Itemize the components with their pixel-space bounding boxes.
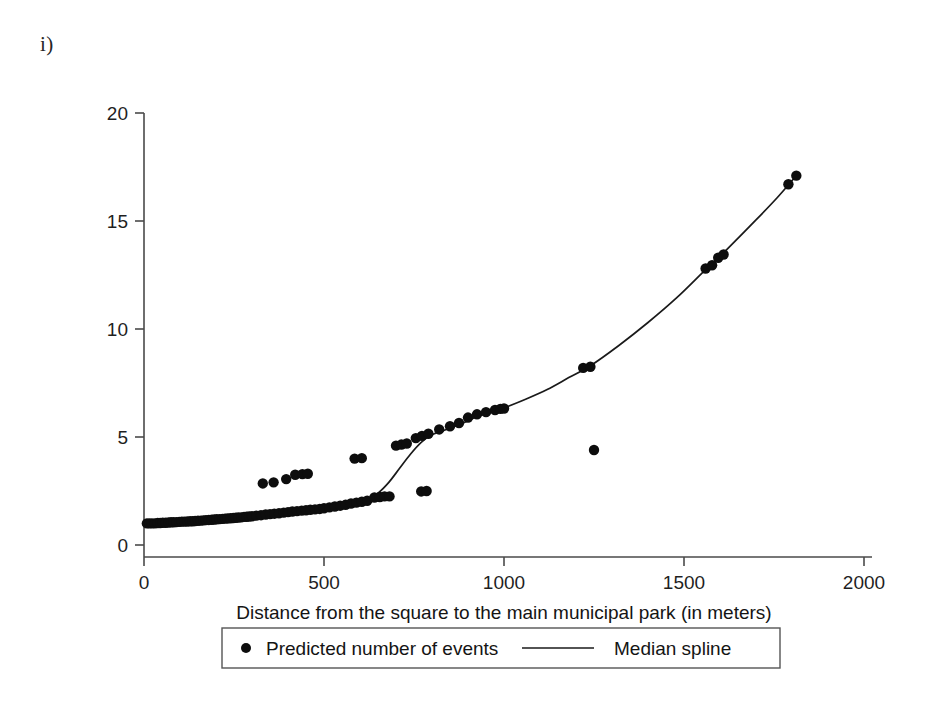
legend-dot-icon	[241, 643, 251, 653]
y-tick-label: 10	[107, 319, 128, 340]
figure-container: i) 051015200500100015002000Distance from…	[0, 0, 939, 712]
data-point	[268, 477, 278, 487]
data-points-layer	[142, 170, 802, 528]
data-point	[481, 407, 491, 417]
x-tick-label: 2000	[843, 572, 885, 593]
data-point	[384, 491, 394, 501]
data-point	[281, 474, 291, 484]
data-point	[445, 421, 455, 431]
data-point	[357, 453, 367, 463]
median-spline-layer	[148, 176, 797, 524]
data-point	[434, 424, 444, 434]
y-tick-label: 0	[117, 535, 128, 556]
data-point	[303, 469, 313, 479]
data-point	[421, 486, 431, 496]
data-point	[791, 170, 801, 180]
x-tick-label: 500	[308, 572, 340, 593]
data-point	[718, 249, 728, 259]
axes-layer	[135, 113, 872, 566]
data-point	[423, 429, 433, 439]
data-point	[472, 409, 482, 419]
x-tick-label: 1000	[483, 572, 525, 593]
data-point	[589, 445, 599, 455]
chart-legend[interactable]: Predicted number of eventsMedian spline	[222, 628, 780, 668]
data-point	[402, 438, 412, 448]
y-tick-label: 15	[107, 211, 128, 232]
axis-labels-layer: 051015200500100015002000Distance from th…	[107, 103, 885, 623]
data-point	[783, 179, 793, 189]
legend-label-predicted[interactable]: Predicted number of events	[266, 638, 498, 659]
data-point	[585, 362, 595, 372]
x-tick-label: 0	[139, 572, 150, 593]
data-point	[258, 478, 268, 488]
median-spline-path	[148, 176, 797, 524]
legend-label-spline[interactable]: Median spline	[614, 638, 731, 659]
data-point	[454, 418, 464, 428]
data-point	[499, 403, 509, 413]
x-tick-label: 1500	[663, 572, 705, 593]
scatter-plot-svg: 051015200500100015002000Distance from th…	[0, 0, 939, 712]
y-tick-label: 5	[117, 427, 128, 448]
x-axis-title: Distance from the square to the main mun…	[236, 602, 771, 623]
y-tick-label: 20	[107, 103, 128, 124]
data-point	[463, 412, 473, 422]
chart-plot-area: 051015200500100015002000Distance from th…	[0, 0, 939, 712]
